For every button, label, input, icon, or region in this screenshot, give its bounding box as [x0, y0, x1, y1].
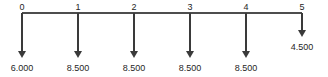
period-label-3: 3 — [187, 2, 192, 12]
period-group-5: 5 4.500 — [291, 2, 314, 52]
cash-flow-amount-5: 4.500 — [291, 42, 314, 52]
cash-flow-amount-3: 8.500 — [179, 63, 202, 73]
cash-flow-arrow-head-1 — [74, 51, 82, 58]
cash-flow-amount-1: 8.500 — [67, 63, 90, 73]
cash-flow-arrow-head-2 — [130, 51, 138, 58]
cash-flow-amount-0: 6.000 — [11, 63, 34, 73]
period-label-0: 0 — [19, 2, 24, 12]
cash-flow-arrow-head-3 — [186, 51, 194, 58]
cash-flow-amount-4: 8.500 — [235, 63, 258, 73]
period-label-1: 1 — [75, 2, 80, 12]
period-label-4: 4 — [243, 2, 248, 12]
cash-flow-diagram: 0 6.000 1 8.500 2 8.500 3 8.500 — [0, 0, 328, 77]
period-label-5: 5 — [299, 2, 304, 12]
cash-flow-arrow-head-4 — [242, 51, 250, 58]
cash-flow-arrow-head-0 — [18, 51, 26, 58]
period-label-2: 2 — [131, 2, 136, 12]
cash-flow-arrow-head-5 — [298, 30, 306, 37]
cash-flow-amount-2: 8.500 — [123, 63, 146, 73]
cash-flow-timeline-svg: 0 6.000 1 8.500 2 8.500 3 8.500 — [0, 0, 328, 77]
